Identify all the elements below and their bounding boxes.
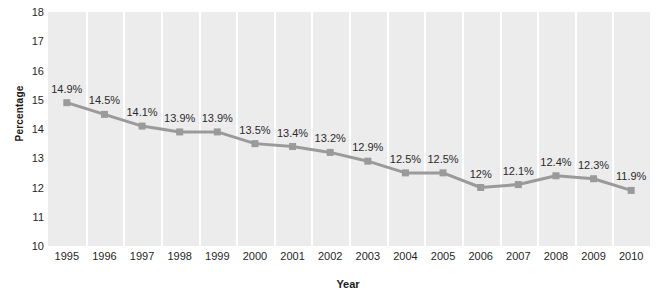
x-axis-tick: 2000 (243, 250, 267, 262)
data-point-marker (214, 128, 221, 135)
data-label: 13.9% (202, 112, 233, 124)
y-axis-tick: 12 (22, 182, 44, 193)
y-axis-tick: 18 (22, 7, 44, 18)
data-label: 12% (470, 168, 492, 180)
data-label: 13.9% (164, 112, 195, 124)
data-label: 12.5% (390, 153, 421, 165)
data-label: 12.9% (352, 141, 383, 153)
data-point-marker (289, 143, 296, 150)
data-label: 12.3% (578, 159, 609, 171)
y-axis-tick: 14 (22, 124, 44, 135)
x-axis-tick: 1997 (130, 250, 154, 262)
y-axis-tick: 11 (22, 211, 44, 222)
x-axis-tick: 1998 (167, 250, 191, 262)
data-point-marker (327, 149, 334, 156)
data-point-marker (176, 128, 183, 135)
y-axis-tick: 10 (22, 241, 44, 252)
x-axis-tick: 2004 (393, 250, 417, 262)
data-series-line (48, 12, 650, 246)
data-label: 13.5% (239, 124, 270, 136)
x-axis-tick: 2002 (318, 250, 342, 262)
y-axis-tick: 13 (22, 153, 44, 164)
data-label: 12.1% (503, 165, 534, 177)
data-label: 14.9% (51, 83, 82, 95)
y-axis-tick: 16 (22, 65, 44, 76)
x-axis-tick: 1999 (205, 250, 229, 262)
x-axis-tick: 2005 (431, 250, 455, 262)
data-label: 13.2% (315, 132, 346, 144)
plot-area: 14.9%14.5%14.1%13.9%13.9%13.5%13.4%13.2%… (48, 12, 650, 246)
data-point-marker (590, 175, 597, 182)
x-axis-tick: 1996 (92, 250, 116, 262)
y-axis-tick: 15 (22, 94, 44, 105)
data-label: 14.1% (126, 106, 157, 118)
y-axis-tick: 17 (22, 36, 44, 47)
data-point-marker (63, 99, 70, 106)
data-point-marker (251, 140, 258, 147)
data-point-marker (364, 158, 371, 165)
data-point-marker (101, 111, 108, 118)
data-point-marker (402, 169, 409, 176)
data-point-marker (440, 169, 447, 176)
x-axis-tick: 2006 (468, 250, 492, 262)
data-label: 14.5% (89, 94, 120, 106)
data-label: 12.4% (540, 156, 571, 168)
line-chart: Percentage 181716151413121110 14.9%14.5%… (0, 0, 664, 303)
x-axis-title: Year (48, 278, 648, 290)
data-point-marker (139, 123, 146, 130)
data-point-marker (628, 187, 635, 194)
x-axis-tick: 1995 (55, 250, 79, 262)
x-axis-tick: 2001 (280, 250, 304, 262)
x-axis-tick: 2009 (581, 250, 605, 262)
x-axis-tick: 2010 (619, 250, 643, 262)
x-axis-tick: 2008 (544, 250, 568, 262)
data-point-marker (515, 181, 522, 188)
y-axis-tick-labels: 181716151413121110 (20, 0, 44, 303)
x-axis-tick: 2007 (506, 250, 530, 262)
data-label: 12.5% (427, 153, 458, 165)
data-label: 11.9% (616, 170, 646, 182)
data-label: 13.4% (277, 127, 308, 139)
data-point-marker (477, 184, 484, 191)
x-axis-tick-labels: 1995199619971998199920002001200220032004… (48, 250, 650, 272)
data-point-marker (552, 172, 559, 179)
x-axis-tick: 2003 (356, 250, 380, 262)
